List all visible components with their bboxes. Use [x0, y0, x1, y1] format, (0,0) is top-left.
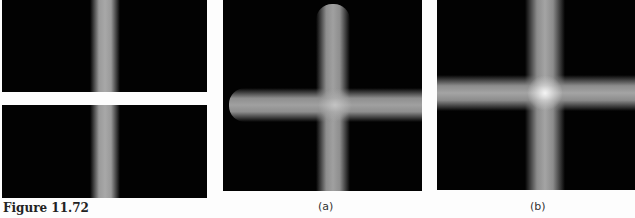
figure-panel-left-bottom	[2, 105, 207, 198]
vertical-stripe	[90, 105, 120, 198]
center-glow	[527, 75, 563, 111]
vertical-stripe	[90, 0, 120, 92]
center-glow	[318, 88, 352, 122]
panel-a-label: (a)	[318, 200, 333, 213]
figure-panel-left-top	[2, 0, 207, 92]
panel-b-label: (b)	[530, 200, 546, 213]
figure-caption: Figure 11.72	[3, 201, 89, 215]
figure-panel-b	[437, 0, 635, 190]
figure-panel-a	[223, 0, 422, 191]
